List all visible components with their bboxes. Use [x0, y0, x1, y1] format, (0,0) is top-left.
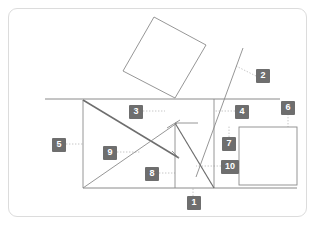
callout-1[interactable]: 1	[187, 196, 201, 210]
geometry-shapes-group	[45, 17, 297, 188]
callout-2[interactable]: 2	[256, 69, 270, 83]
right-rectangle	[239, 127, 297, 185]
leader-2	[236, 66, 256, 76]
callout-7[interactable]: 7	[222, 137, 236, 151]
tilted-square	[123, 17, 206, 98]
callout-5[interactable]: 5	[52, 138, 66, 152]
callout-6[interactable]: 6	[281, 101, 295, 115]
diagram-stage: 12345678910	[0, 0, 317, 227]
peak-to-bottom-right-diagonal	[175, 123, 214, 188]
callout-3[interactable]: 3	[129, 105, 143, 119]
callout-10[interactable]: 10	[221, 160, 239, 174]
callout-4[interactable]: 4	[235, 105, 249, 119]
diagram-figure	[0, 0, 317, 227]
callout-8[interactable]: 8	[145, 167, 159, 181]
ascending-diagonal	[83, 123, 177, 188]
callout-9[interactable]: 9	[103, 146, 117, 160]
peak-left-tick	[167, 120, 180, 128]
